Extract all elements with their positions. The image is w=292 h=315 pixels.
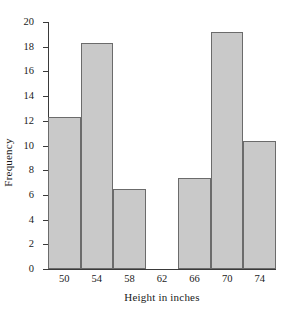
y-axis-title: Frequency — [0, 0, 16, 315]
histogram-bar — [178, 178, 211, 269]
plot-area: 02468101214161820 50545862667074 — [48, 22, 276, 270]
y-axis-tick-label: 16 — [24, 66, 35, 77]
y-axis-tick-label: 20 — [24, 17, 35, 28]
histogram-bar — [48, 117, 81, 269]
y-axis-tick — [43, 71, 48, 72]
y-axis-tick — [43, 96, 48, 97]
histogram-bar — [81, 43, 114, 269]
y-axis-tick-label: 10 — [24, 140, 35, 151]
y-axis-tick — [43, 47, 48, 48]
y-axis-tick-label: 8 — [29, 165, 34, 176]
y-axis-tick — [43, 22, 48, 23]
y-axis-tick-label: 12 — [24, 116, 35, 127]
histogram-bar — [113, 189, 146, 269]
histogram-figure: Frequency 02468101214161820 505458626670… — [0, 0, 292, 315]
histogram-bar — [211, 32, 244, 269]
x-axis-tick-label: 50 — [59, 274, 70, 285]
x-axis-title: Height in inches — [48, 291, 276, 303]
y-axis-tick-label: 2 — [29, 239, 34, 250]
y-axis-tick — [43, 269, 48, 270]
x-axis-tick-label: 74 — [254, 274, 265, 285]
x-axis-tick-label: 70 — [222, 274, 233, 285]
y-axis-tick-label: 4 — [29, 214, 34, 225]
y-axis-tick-label: 18 — [24, 41, 35, 52]
y-axis-tick-label: 6 — [29, 190, 34, 201]
y-axis-tick-label: 0 — [29, 264, 34, 275]
x-axis-tick-label: 66 — [189, 274, 200, 285]
y-axis-title-text: Frequency — [2, 138, 14, 186]
histogram-bar — [243, 141, 276, 269]
x-axis-line — [44, 269, 276, 270]
x-axis-tick-label: 54 — [92, 274, 103, 285]
x-axis-tick-label: 62 — [157, 274, 168, 285]
x-axis-tick-label: 58 — [124, 274, 135, 285]
y-axis-tick-label: 14 — [24, 91, 35, 102]
